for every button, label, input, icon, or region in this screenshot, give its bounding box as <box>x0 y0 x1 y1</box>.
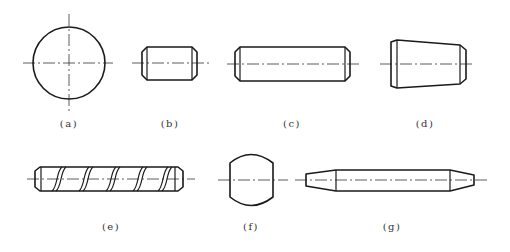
part-b-short-pin: (b) <box>132 47 212 129</box>
label-e: (e) <box>102 221 120 232</box>
part-c-long-pin: (c) <box>227 47 362 129</box>
part-a-circle: (a) <box>23 14 113 129</box>
part-f-barrel: (f) <box>218 155 288 233</box>
label-b: (b) <box>161 118 180 129</box>
pin-outline <box>306 170 474 191</box>
pin-outline <box>142 47 197 80</box>
label-f: (f) <box>243 221 259 232</box>
label-a: (a) <box>60 118 78 129</box>
part-e-spiral-pin: (e) <box>27 167 195 232</box>
label-c: (c) <box>283 118 301 129</box>
label-d: (d) <box>416 118 435 129</box>
part-g-double-taper: (g) <box>295 170 487 232</box>
label-g: (g) <box>383 221 402 232</box>
part-d-tapered-pin: (d) <box>380 40 475 129</box>
parts-diagram: (a) (b) (c) (d) (e) <box>0 0 510 252</box>
